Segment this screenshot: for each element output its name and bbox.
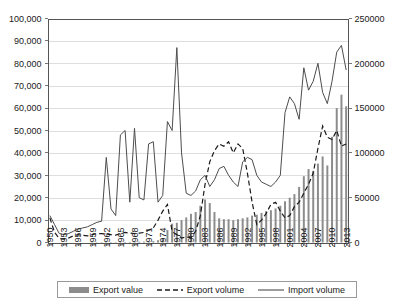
x-tick-label: 2010 [327, 227, 337, 247]
x-tick-label: 1968 [130, 227, 140, 247]
x-tick-label: 1959 [88, 227, 98, 247]
y-tick-label-right: 200000 [355, 59, 385, 69]
x-tick-label: 1965 [116, 227, 126, 247]
chart-figure: 010,00020,00030,00040,00050,00060,00070,… [0, 0, 417, 304]
x-tick-label: 1962 [102, 227, 112, 247]
y-tick-label-left: 100,000 [9, 14, 42, 24]
y-tick-label-right: 250000 [355, 14, 385, 24]
y-tick-label-right: 0 [355, 238, 360, 248]
x-tick-label: 2007 [313, 227, 323, 247]
legend-entry-import-volume: Import volume [258, 285, 345, 295]
x-tick-label: 1977 [172, 227, 182, 247]
x-tick-label: 1971 [144, 227, 154, 247]
bar-export-value [345, 106, 347, 242]
y-tick-label-left: 90,000 [14, 36, 42, 46]
x-tick-label: 1974 [158, 227, 168, 247]
bar-swatch-icon [69, 287, 89, 293]
y-tick-label-right: 50000 [355, 193, 380, 203]
y-tick-label-left: 30,000 [14, 171, 42, 181]
y-tick-label-left: 80,000 [14, 59, 42, 69]
line-import-volume [50, 45, 346, 234]
solid-line-swatch-icon [258, 286, 284, 294]
y-tick-label-left: 40,000 [14, 148, 42, 158]
y-tick-label-left: 50,000 [14, 126, 42, 136]
chart-legend: Export value Export volume Import volume [57, 281, 357, 298]
y-tick-label-left: 70,000 [14, 81, 42, 91]
y-tick-label-left: 60,000 [14, 103, 42, 113]
chart-plot-area: 010,00020,00030,00040,00050,00060,00070,… [0, 0, 417, 304]
legend-label-export-volume: Export volume [187, 285, 245, 295]
x-tick-label: 1980 [186, 227, 196, 247]
line-export-volume [50, 126, 346, 239]
y-tick-label-left: 10,000 [14, 215, 42, 225]
legend-label-export-value: Export value [93, 285, 143, 295]
y-tick-label-left: 0 [36, 238, 41, 248]
legend-label-import-volume: Import volume [288, 285, 345, 295]
y-tick-label-left: 20,000 [14, 193, 42, 203]
x-tick-label: 2013 [342, 227, 352, 247]
bar-export-value [336, 108, 338, 242]
dashed-line-swatch-icon [157, 286, 183, 294]
legend-entry-export-volume: Export volume [157, 285, 245, 295]
y-tick-label-right: 100000 [355, 148, 385, 158]
bar-export-value [340, 95, 342, 243]
bar-export-value [331, 137, 333, 243]
y-tick-label-right: 150000 [355, 103, 385, 113]
legend-entry-export-value: Export value [69, 285, 143, 295]
